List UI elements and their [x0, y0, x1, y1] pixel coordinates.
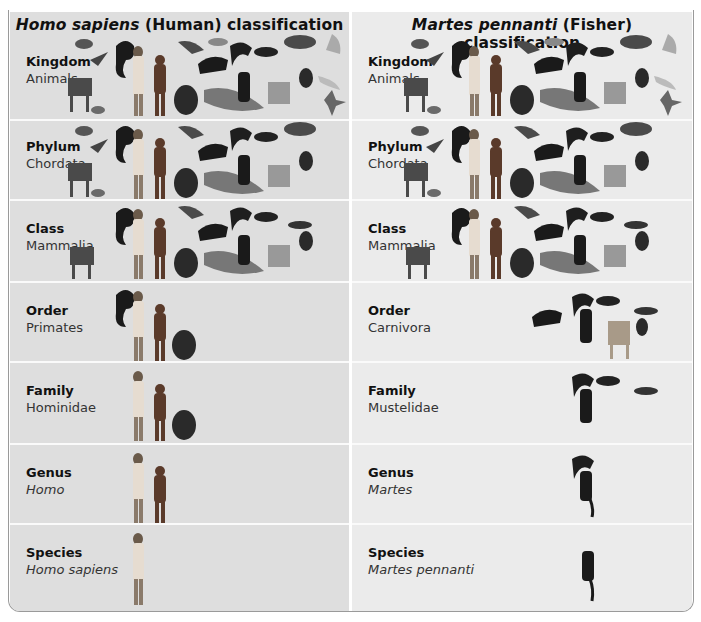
- panel-title-species: Homo sapiens: [16, 16, 140, 34]
- human-icon: [128, 527, 158, 609]
- rank-label: Family: [368, 383, 416, 398]
- animals-group-icon: [404, 34, 689, 119]
- panel-title-rest: (Human) classification: [140, 16, 344, 34]
- rank-label: Class: [26, 221, 64, 236]
- rank-row-order: Order Carnivora: [352, 281, 692, 363]
- human-classification-panel: Homo sapiens (Human) classification King…: [10, 12, 349, 611]
- rank-row-class: Class Mammalia: [10, 199, 349, 283]
- rank-row-phylum: Phylum Chordata: [352, 119, 692, 201]
- rank-row-genus: Genus Homo: [10, 443, 349, 525]
- rank-row-kingdom: Kingdom Animals: [10, 34, 349, 119]
- rank-row-species: Species Martes pennanti: [352, 523, 692, 611]
- rank-label: Species: [26, 545, 82, 560]
- rank-label: Class: [368, 221, 406, 236]
- chordates-group-icon: [68, 121, 348, 201]
- rank-row-class: Class Mammalia: [352, 199, 692, 283]
- animals-group-icon: [68, 34, 348, 119]
- rank-row-kingdom: Kingdom Animals: [352, 34, 692, 119]
- mustelids-group-icon: [570, 367, 670, 427]
- taxon-label: Hominidae: [26, 400, 96, 415]
- rank-label: Genus: [26, 465, 72, 480]
- rank-label: Family: [26, 383, 74, 398]
- rank-label: Genus: [368, 465, 414, 480]
- fisher-icon: [578, 551, 608, 611]
- rank-label: Species: [368, 545, 424, 560]
- taxon-label: Martes pennanti: [368, 562, 474, 577]
- taxon-label: Martes: [368, 482, 412, 497]
- taxon-label: Primates: [26, 320, 83, 335]
- rank-row-order: Order Primates: [10, 281, 349, 363]
- taxon-label: Homo: [26, 482, 64, 497]
- martes-genus-icon: [570, 449, 610, 519]
- rank-label: Order: [26, 303, 68, 318]
- panel-title: Homo sapiens (Human) classification: [10, 16, 349, 34]
- taxon-label: Carnivora: [368, 320, 431, 335]
- mammals-group-icon: [404, 201, 689, 281]
- fisher-classification-panel: Martes pennanti (Fisher) classification …: [352, 12, 692, 611]
- taxon-label: Homo sapiens: [26, 562, 118, 577]
- taxon-label: Mustelidae: [368, 400, 439, 415]
- rank-row-phylum: Phylum Chordata: [10, 119, 349, 201]
- chordates-group-icon: [404, 121, 689, 201]
- rank-row-family: Family Mustelidae: [352, 361, 692, 445]
- classification-diagram: Homo sapiens (Human) classification King…: [8, 10, 694, 612]
- primates-group-icon: [108, 283, 218, 363]
- hominids-group-icon: [128, 363, 218, 445]
- panel-title-species: Martes pennanti: [412, 16, 557, 34]
- rank-row-family: Family Hominidae: [10, 361, 349, 445]
- homo-genus-icon: [128, 445, 188, 525]
- rank-row-genus: Genus Martes: [352, 443, 692, 525]
- mammals-group-icon: [68, 201, 348, 281]
- rank-label: Order: [368, 303, 410, 318]
- carnivores-group-icon: [530, 287, 670, 363]
- rank-row-species: Species Homo sapiens: [10, 523, 349, 611]
